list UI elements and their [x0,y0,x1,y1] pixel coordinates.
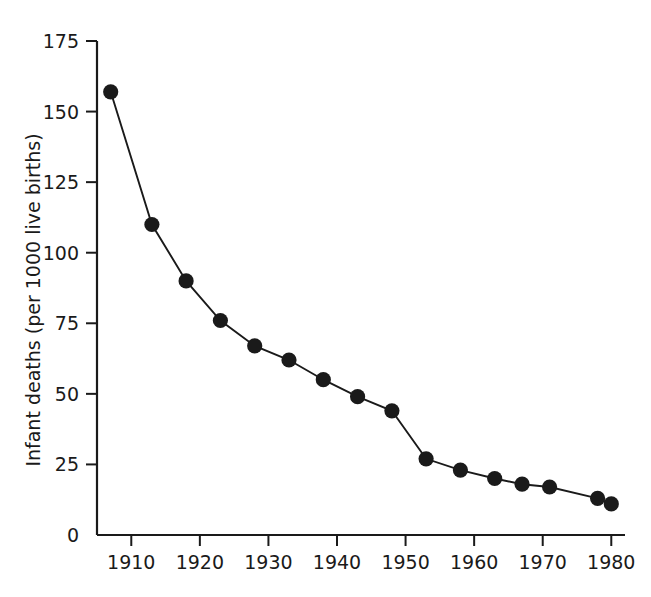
y-tick-label: 100 [43,242,79,264]
data-point [590,491,605,506]
data-point [515,477,530,492]
x-tick-label: 1960 [450,551,498,573]
data-point [453,463,468,478]
x-tick-label: 1930 [244,551,292,573]
data-point [350,389,365,404]
axis-lines [97,41,625,535]
data-point [144,217,159,232]
data-point [384,403,399,418]
data-point [179,273,194,288]
x-tick-label: 1980 [587,551,635,573]
data-point [213,313,228,328]
y-axis-title-text: Infant deaths (per 1000 live births) [22,133,44,466]
y-axis-title: Infant deaths (per 1000 live births) [22,133,44,466]
line-chart-canvas: Infant deaths (per 1000 live births) 025… [0,0,651,597]
y-tick-label: 0 [67,524,79,546]
data-point [247,338,262,353]
y-tick-label: 125 [43,171,79,193]
y-tick-label: 75 [55,312,79,334]
data-point [487,471,502,486]
x-tick-label: 1920 [176,551,224,573]
x-tick-label: 1910 [107,551,155,573]
data-point [419,451,434,466]
series-line [111,92,612,504]
x-tick-label: 1970 [519,551,567,573]
y-tick-label: 50 [55,383,79,405]
series-markers [103,84,619,511]
data-point [316,372,331,387]
y-axis-ticks: 0255075100125150175 [43,30,97,546]
x-tick-label: 1950 [381,551,429,573]
chart-figure: Infant deaths (per 1000 live births) 025… [0,0,651,597]
y-tick-label: 175 [43,30,79,52]
series-polyline [111,92,612,504]
x-axis-ticks: 19101920193019401950196019701980 [107,535,635,573]
y-tick-label: 25 [55,453,79,475]
data-point [103,84,118,99]
data-point [542,479,557,494]
y-tick-label: 150 [43,101,79,123]
data-point [604,496,619,511]
data-point [281,352,296,367]
x-tick-label: 1940 [313,551,361,573]
